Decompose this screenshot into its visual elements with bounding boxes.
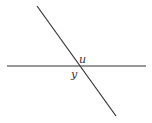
- angle-label-u: u: [79, 53, 86, 66]
- angle-label-y: y: [70, 68, 78, 81]
- transversal-line: [37, 6, 116, 116]
- intersecting-lines-diagram: u y: [0, 0, 152, 123]
